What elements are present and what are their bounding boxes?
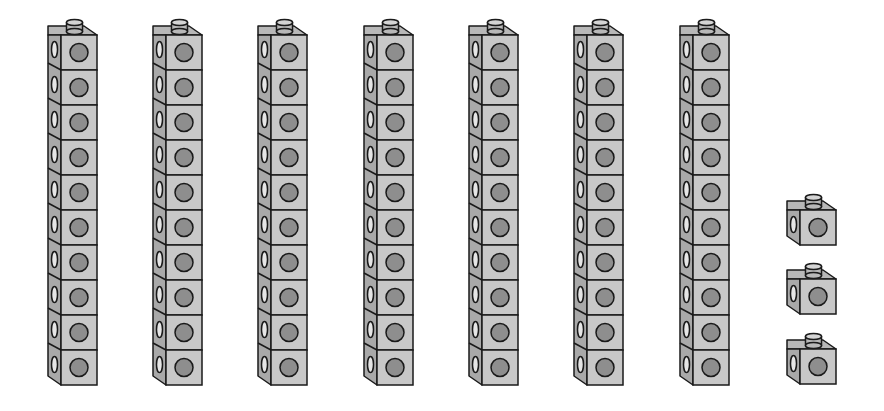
- ten-tower-1: [48, 20, 97, 386]
- side-hole-icon: [578, 77, 584, 93]
- dot-icon: [596, 79, 614, 97]
- side-hole-icon: [473, 357, 479, 373]
- dot-icon: [175, 254, 193, 272]
- dot-icon: [702, 149, 720, 167]
- side-hole-icon: [578, 357, 584, 373]
- dot-icon: [491, 289, 509, 307]
- dot-icon: [70, 219, 88, 237]
- dot-icon: [702, 254, 720, 272]
- dot-icon: [175, 114, 193, 132]
- dot-icon: [70, 324, 88, 342]
- dot-icon: [70, 114, 88, 132]
- dot-icon: [175, 324, 193, 342]
- side-hole-icon: [52, 252, 58, 268]
- side-hole-icon: [52, 77, 58, 93]
- dot-icon: [280, 324, 298, 342]
- dot-icon: [386, 289, 404, 307]
- dot-icon: [386, 219, 404, 237]
- side-hole-icon: [473, 147, 479, 163]
- dot-icon: [280, 114, 298, 132]
- side-hole-icon: [52, 42, 58, 58]
- dot-icon: [175, 184, 193, 202]
- side-hole-icon: [791, 286, 797, 302]
- ten-tower-7: [680, 20, 729, 386]
- side-hole-icon: [684, 287, 690, 303]
- side-hole-icon: [684, 42, 690, 58]
- unit-cube-1: [787, 195, 836, 246]
- side-hole-icon: [262, 182, 268, 198]
- dot-icon: [175, 79, 193, 97]
- dot-icon: [596, 149, 614, 167]
- side-hole-icon: [684, 112, 690, 128]
- unit-cube-3: [787, 334, 836, 385]
- dot-icon: [491, 324, 509, 342]
- dot-icon: [702, 184, 720, 202]
- ten-tower-3: [258, 20, 307, 386]
- side-hole-icon: [578, 112, 584, 128]
- side-hole-icon: [684, 252, 690, 268]
- side-hole-icon: [368, 112, 374, 128]
- side-hole-icon: [262, 322, 268, 338]
- side-hole-icon: [368, 77, 374, 93]
- dot-icon: [491, 79, 509, 97]
- dot-icon: [596, 359, 614, 377]
- side-hole-icon: [473, 322, 479, 338]
- dot-icon: [386, 359, 404, 377]
- side-hole-icon: [52, 357, 58, 373]
- dot-icon: [596, 324, 614, 342]
- dot-icon: [70, 149, 88, 167]
- side-hole-icon: [262, 77, 268, 93]
- side-hole-icon: [368, 322, 374, 338]
- dot-icon: [596, 219, 614, 237]
- dot-icon: [702, 359, 720, 377]
- side-hole-icon: [684, 322, 690, 338]
- side-hole-icon: [157, 147, 163, 163]
- side-hole-icon: [578, 182, 584, 198]
- side-hole-icon: [368, 182, 374, 198]
- side-hole-icon: [52, 147, 58, 163]
- side-hole-icon: [157, 182, 163, 198]
- side-hole-icon: [262, 357, 268, 373]
- side-hole-icon: [791, 217, 797, 233]
- dot-icon: [809, 358, 827, 376]
- dot-icon: [702, 79, 720, 97]
- dot-icon: [280, 254, 298, 272]
- dot-icon: [596, 289, 614, 307]
- dot-icon: [491, 254, 509, 272]
- side-hole-icon: [157, 287, 163, 303]
- dot-icon: [386, 114, 404, 132]
- side-hole-icon: [262, 112, 268, 128]
- side-hole-icon: [157, 357, 163, 373]
- dot-icon: [386, 79, 404, 97]
- side-hole-icon: [578, 217, 584, 233]
- dot-icon: [280, 79, 298, 97]
- dot-icon: [70, 359, 88, 377]
- side-hole-icon: [262, 217, 268, 233]
- dot-icon: [386, 324, 404, 342]
- side-hole-icon: [157, 112, 163, 128]
- dot-icon: [175, 289, 193, 307]
- dot-icon: [702, 219, 720, 237]
- side-hole-icon: [157, 42, 163, 58]
- dot-icon: [596, 44, 614, 62]
- dot-icon: [175, 359, 193, 377]
- dot-icon: [596, 184, 614, 202]
- side-hole-icon: [473, 77, 479, 93]
- side-hole-icon: [684, 182, 690, 198]
- dot-icon: [491, 149, 509, 167]
- dot-icon: [175, 219, 193, 237]
- cube-diagram: Base-ten linking cubes: [0, 0, 884, 411]
- side-hole-icon: [368, 252, 374, 268]
- dot-icon: [596, 114, 614, 132]
- dot-icon: [809, 288, 827, 306]
- side-hole-icon: [52, 182, 58, 198]
- dot-icon: [175, 149, 193, 167]
- dot-icon: [280, 289, 298, 307]
- dot-icon: [70, 184, 88, 202]
- side-hole-icon: [368, 357, 374, 373]
- dot-icon: [491, 44, 509, 62]
- side-hole-icon: [368, 42, 374, 58]
- dot-icon: [70, 44, 88, 62]
- side-hole-icon: [52, 112, 58, 128]
- side-hole-icon: [473, 112, 479, 128]
